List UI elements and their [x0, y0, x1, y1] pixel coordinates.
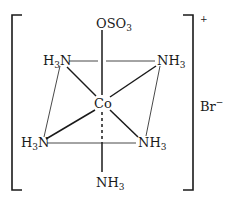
ligand-bottom-left: H3N — [21, 135, 49, 152]
diagram-canvas: Co OSO3 H3N NH3 H3N NH3 NH3 + Br− — [0, 0, 227, 203]
bond-top-left — [67, 67, 96, 96]
bond-top-right — [110, 66, 156, 97]
ligand-bottom-right: NH3 — [138, 135, 167, 152]
complex-charge: + — [200, 14, 208, 24]
counter-ion: Br− — [200, 97, 223, 114]
bond-bottom-right — [110, 110, 138, 137]
complex-structure: Co OSO3 H3N NH3 H3N NH3 NH3 + Br− — [0, 0, 227, 203]
bond-bottom-left — [46, 110, 95, 139]
ligand-top-left: H3N — [43, 53, 71, 70]
central-atom-label: Co — [94, 96, 112, 111]
ligand-top-right: NH3 — [157, 53, 186, 70]
left-bracket — [12, 15, 22, 190]
right-bracket — [183, 15, 193, 190]
ligand-axial-bottom: NH3 — [96, 175, 125, 192]
ligand-axial-top: OSO3 — [96, 16, 132, 33]
